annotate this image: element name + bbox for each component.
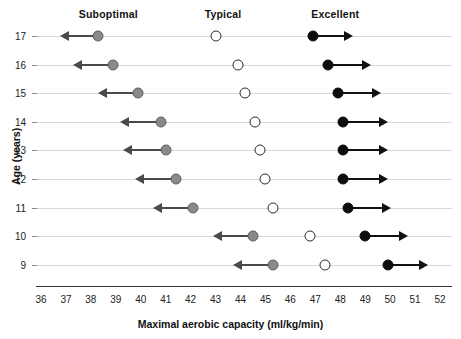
x-tick-label: 42 bbox=[185, 294, 196, 305]
excellent-marker bbox=[322, 59, 333, 70]
excellent-arrowhead-icon bbox=[362, 60, 371, 70]
typical-marker bbox=[240, 88, 251, 99]
y-tick-label: 14 bbox=[4, 116, 26, 127]
y-tick-mark bbox=[32, 265, 37, 266]
y-tick-label: 16 bbox=[4, 59, 26, 70]
group-label-typical: Typical bbox=[205, 8, 242, 20]
x-tick-label: 49 bbox=[360, 294, 371, 305]
typical-marker bbox=[250, 116, 261, 127]
y-tick-mark bbox=[32, 93, 37, 94]
group-label-excellent: Excellent bbox=[311, 8, 359, 20]
suboptimal-arrowhead-icon bbox=[233, 260, 242, 270]
y-tick-label: 15 bbox=[4, 88, 26, 99]
typical-marker bbox=[267, 202, 278, 213]
excellent-marker bbox=[382, 259, 393, 270]
x-tick-label: 52 bbox=[434, 294, 445, 305]
excellent-arrowhead-icon bbox=[419, 260, 428, 270]
excellent-marker bbox=[332, 88, 343, 99]
excellent-arrowhead-icon bbox=[344, 31, 353, 41]
excellent-marker bbox=[337, 116, 348, 127]
y-tick-mark bbox=[32, 36, 37, 37]
suboptimal-arrowhead-icon bbox=[73, 60, 82, 70]
suboptimal-marker bbox=[93, 31, 104, 42]
excellent-marker bbox=[337, 174, 348, 185]
y-tick-mark bbox=[32, 65, 37, 66]
chart-container: SuboptimalTypicalExcellent 1716151413121… bbox=[0, 0, 461, 339]
y-tick-mark bbox=[32, 236, 37, 237]
excellent-marker bbox=[360, 231, 371, 242]
suboptimal-arrowhead-icon bbox=[98, 88, 107, 98]
x-tick-label: 43 bbox=[210, 294, 221, 305]
typical-marker bbox=[305, 231, 316, 242]
x-tick-label: 39 bbox=[110, 294, 121, 305]
x-tick-label: 46 bbox=[285, 294, 296, 305]
typical-marker bbox=[210, 31, 221, 42]
x-tick-label: 44 bbox=[235, 294, 246, 305]
x-tick-label: 38 bbox=[85, 294, 96, 305]
x-axis-title: Maximal aerobic capacity (ml/kg/min) bbox=[0, 318, 461, 330]
y-tick-mark bbox=[32, 150, 37, 151]
suboptimal-marker bbox=[188, 202, 199, 213]
excellent-arrowhead-icon bbox=[379, 117, 388, 127]
x-tick-label: 48 bbox=[335, 294, 346, 305]
y-tick-mark bbox=[32, 122, 37, 123]
excellent-arrowhead-icon bbox=[399, 231, 408, 241]
y-tick-label: 10 bbox=[4, 231, 26, 242]
typical-marker bbox=[320, 259, 331, 270]
suboptimal-marker bbox=[155, 116, 166, 127]
excellent-arrowhead-icon bbox=[379, 174, 388, 184]
x-tick-label: 50 bbox=[385, 294, 396, 305]
row-baseline bbox=[36, 150, 452, 151]
typical-marker bbox=[255, 145, 266, 156]
y-tick-label: 9 bbox=[4, 259, 26, 270]
y-tick-label: 17 bbox=[4, 31, 26, 42]
suboptimal-arrowhead-icon bbox=[135, 174, 144, 184]
suboptimal-marker bbox=[160, 145, 171, 156]
y-tick-label: 11 bbox=[4, 202, 26, 213]
suboptimal-arrowhead-icon bbox=[60, 31, 69, 41]
group-label-suboptimal: Suboptimal bbox=[79, 8, 138, 20]
suboptimal-arrowhead-icon bbox=[153, 203, 162, 213]
typical-marker bbox=[260, 174, 271, 185]
excellent-marker bbox=[307, 31, 318, 42]
y-tick-mark bbox=[32, 208, 37, 209]
x-tick-label: 45 bbox=[260, 294, 271, 305]
suboptimal-marker bbox=[267, 259, 278, 270]
excellent-marker bbox=[342, 202, 353, 213]
excellent-arrowhead-icon bbox=[379, 145, 388, 155]
suboptimal-marker bbox=[133, 88, 144, 99]
suboptimal-arrowhead-icon bbox=[123, 145, 132, 155]
x-tick-label: 40 bbox=[135, 294, 146, 305]
x-tick-label: 41 bbox=[160, 294, 171, 305]
suboptimal-marker bbox=[108, 59, 119, 70]
suboptimal-marker bbox=[247, 231, 258, 242]
typical-marker bbox=[233, 59, 244, 70]
suboptimal-arrowhead-icon bbox=[213, 231, 222, 241]
row-baseline bbox=[36, 122, 452, 123]
x-tick-label: 47 bbox=[310, 294, 321, 305]
x-tick-label: 37 bbox=[60, 294, 71, 305]
suboptimal-arrowhead-icon bbox=[120, 117, 129, 127]
excellent-marker bbox=[337, 145, 348, 156]
y-axis-title: Age (years) bbox=[10, 128, 22, 185]
x-tick-label: 36 bbox=[35, 294, 46, 305]
row-baseline bbox=[36, 179, 452, 180]
x-tick-label: 51 bbox=[410, 294, 421, 305]
suboptimal-marker bbox=[170, 174, 181, 185]
excellent-arrowhead-icon bbox=[382, 203, 391, 213]
y-tick-mark bbox=[32, 179, 37, 180]
excellent-arrowhead-icon bbox=[372, 88, 381, 98]
x-axis-line bbox=[36, 286, 452, 287]
